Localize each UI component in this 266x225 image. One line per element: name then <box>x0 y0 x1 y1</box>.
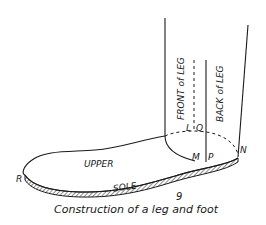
point-l-label: L <box>186 123 191 133</box>
leg-foot-diagram: FRONT of LEG BACK of LEG L Q M P N R UPP… <box>0 0 266 225</box>
back-of-leg-label: BACK of LEG <box>215 65 225 122</box>
figure-caption: Construction of a leg and foot <box>54 203 219 216</box>
upper-label: UPPER <box>84 159 113 169</box>
diagram-canvas: FRONT of LEG BACK of LEG L Q M P N R UPP… <box>0 0 266 225</box>
point-p-label: P <box>208 152 214 162</box>
point-n-label: N <box>240 145 247 155</box>
point-q-label: Q <box>196 123 203 133</box>
figure-number: 9 <box>176 191 182 202</box>
point-m-label: M <box>192 152 200 162</box>
ankle-arc-front <box>165 136 195 161</box>
ankle-arc-back-dashed <box>165 131 238 155</box>
front-of-leg-label: FRONT of LEG <box>176 57 186 120</box>
point-r-label: R <box>16 174 22 184</box>
sole-band <box>25 158 238 197</box>
leg-back-line <box>238 25 248 157</box>
